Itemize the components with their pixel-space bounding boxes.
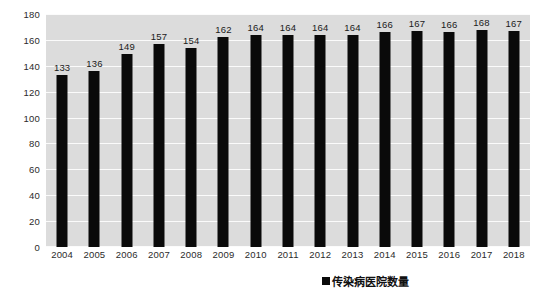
plot-area: 1331361491571541621641641641641661671661… [46,14,530,247]
bar-slot: 157 [143,14,175,247]
bar[interactable] [186,48,197,247]
bar-value-label: 154 [183,35,199,46]
bar[interactable] [476,30,487,247]
y-axis-tick-label: 180 [24,9,40,20]
x-axis-tick-label: 2008 [180,249,202,260]
bar[interactable] [282,35,293,247]
bar-value-label: 164 [312,22,328,33]
bar[interactable] [444,32,455,247]
legend-label: 传染病医院数量 [332,273,409,289]
bar-value-label: 164 [280,22,296,33]
bar-value-label: 164 [344,22,360,33]
bar-slot: 164 [336,14,368,247]
x-axis-tick-label: 2010 [245,249,267,260]
bar-value-label: 164 [247,22,263,33]
x-axis-tick-label: 2009 [212,249,234,260]
y-axis-tick-label: 80 [29,138,40,149]
bar-chart: 020406080100120140160180 133136149157154… [0,0,543,292]
bar[interactable] [412,31,423,247]
bar-value-label: 167 [506,18,522,29]
bar[interactable] [379,32,390,247]
x-axis-tick-label: 2007 [148,249,170,260]
bars-layer: 1331361491571541621641641641641661671661… [46,14,530,247]
bar[interactable] [508,31,519,247]
x-axis-tick-label: 2012 [309,249,331,260]
legend-entry-infectious-disease-hospitals: 传染病医院数量 [322,273,409,289]
bar-value-label: 168 [473,17,489,28]
x-axis-tick-label: 2015 [406,249,428,260]
bar-slot: 162 [207,14,239,247]
y-axis-tick-label: 160 [24,34,40,45]
bar-value-label: 166 [377,19,393,30]
y-axis-tick-label: 0 [35,242,40,253]
bar-value-label: 133 [54,62,70,73]
y-axis-tick-label: 20 [29,216,40,227]
bar[interactable] [57,75,68,247]
bar[interactable] [121,54,132,247]
bar-slot: 136 [78,14,110,247]
x-axis-tick-label: 2005 [83,249,105,260]
bar[interactable] [250,35,261,247]
bar-slot: 154 [175,14,207,247]
bar-value-label: 162 [215,24,231,35]
bar-slot: 167 [498,14,530,247]
legend-swatch-icon [322,277,330,285]
bar[interactable] [218,37,229,247]
y-axis-tick-label: 120 [24,86,40,97]
bar-slot: 164 [304,14,336,247]
bar-value-label: 136 [86,58,102,69]
bar-value-label: 166 [441,19,457,30]
x-axis-tick-label: 2006 [116,249,138,260]
bar-slot: 166 [369,14,401,247]
bar-value-label: 149 [118,41,134,52]
x-axis-tick-label: 2011 [277,249,298,260]
x-axis-tick-label: 2004 [51,249,73,260]
x-axis-tick-label: 2016 [438,249,460,260]
y-axis-tick-label: 140 [24,60,40,71]
x-axis-tick-label: 2013 [342,249,364,260]
bar[interactable] [153,44,164,247]
bar-slot: 133 [46,14,78,247]
y-axis: 020406080100120140160180 [0,8,44,250]
bar-slot: 164 [240,14,272,247]
bar-slot: 149 [111,14,143,247]
bar-slot: 164 [272,14,304,247]
x-axis-tick-label: 2018 [503,249,525,260]
bar[interactable] [347,35,358,247]
x-axis-tick-label: 2014 [374,249,396,260]
bar[interactable] [315,35,326,247]
bar-slot: 167 [401,14,433,247]
x-axis: 2004200520062007200820092010201120122013… [46,249,530,265]
y-axis-tick-label: 40 [29,190,40,201]
chart-legend: 传染病医院数量 [0,272,543,290]
bar-slot: 166 [433,14,465,247]
y-axis-tick-label: 60 [29,164,40,175]
bar-value-label: 157 [151,31,167,42]
bar-value-label: 167 [409,18,425,29]
y-axis-tick-label: 100 [24,112,40,123]
bar-slot: 168 [465,14,497,247]
bar[interactable] [89,71,100,247]
x-axis-tick-label: 2017 [471,249,493,260]
